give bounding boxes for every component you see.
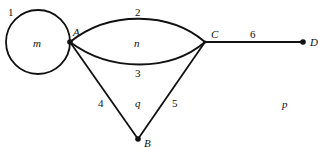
vertex-label-b: B (144, 137, 151, 148)
edge-label-5: 5 (172, 97, 178, 109)
vertex-d (300, 39, 306, 45)
face-label-m: m (33, 37, 41, 49)
edge-label-4: 4 (98, 97, 104, 109)
edge-label-2: 2 (135, 6, 141, 18)
edge-4 (70, 42, 138, 139)
vertex-label-a: A (72, 26, 80, 38)
edge-label-1: 1 (8, 6, 14, 18)
vertex-a (67, 39, 73, 45)
face-label-q: q (135, 97, 141, 109)
edge-label-6: 6 (250, 28, 256, 40)
vertex-c (204, 41, 207, 44)
edge-5 (138, 42, 205, 139)
vertex-label-c: C (211, 28, 219, 40)
edge-label-3: 3 (135, 67, 141, 79)
vertex-b (135, 136, 141, 142)
face-label-p: p (281, 98, 288, 110)
graph-diagram: A B C D 1 2 3 4 5 6 m n q p (0, 0, 318, 148)
face-label-n: n (134, 37, 140, 49)
vertex-label-d: D (309, 36, 318, 48)
